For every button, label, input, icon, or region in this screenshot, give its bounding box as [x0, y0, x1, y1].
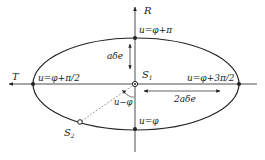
left-point — [31, 82, 35, 86]
r-axis-label: R — [144, 6, 152, 16]
s2-label-sub: 2 — [71, 132, 75, 139]
s2-point — [78, 120, 83, 125]
top-point — [133, 36, 137, 40]
semi-minor-label: aδe — [107, 52, 123, 61]
t-axis-label: T — [12, 72, 19, 82]
right-point-label: u=φ+3π/2 — [187, 74, 235, 83]
right-point — [237, 82, 241, 86]
bottom-point — [133, 127, 137, 131]
s2-label-text: S — [64, 127, 71, 138]
s2-label: S2 — [64, 128, 75, 139]
s1-label-text: S — [142, 69, 149, 80]
left-point-label: u=φ+π/2 — [38, 74, 80, 83]
s1-point-center — [134, 83, 136, 85]
major-axis-label: 2aδe — [174, 95, 196, 104]
s1-label-sub: 1 — [149, 74, 153, 81]
top-point-label: u=φ+π — [139, 26, 172, 35]
angle-label: u−φ — [114, 98, 133, 107]
bottom-point-label: u=φ — [139, 117, 159, 126]
s1-label: S1 — [142, 70, 153, 81]
